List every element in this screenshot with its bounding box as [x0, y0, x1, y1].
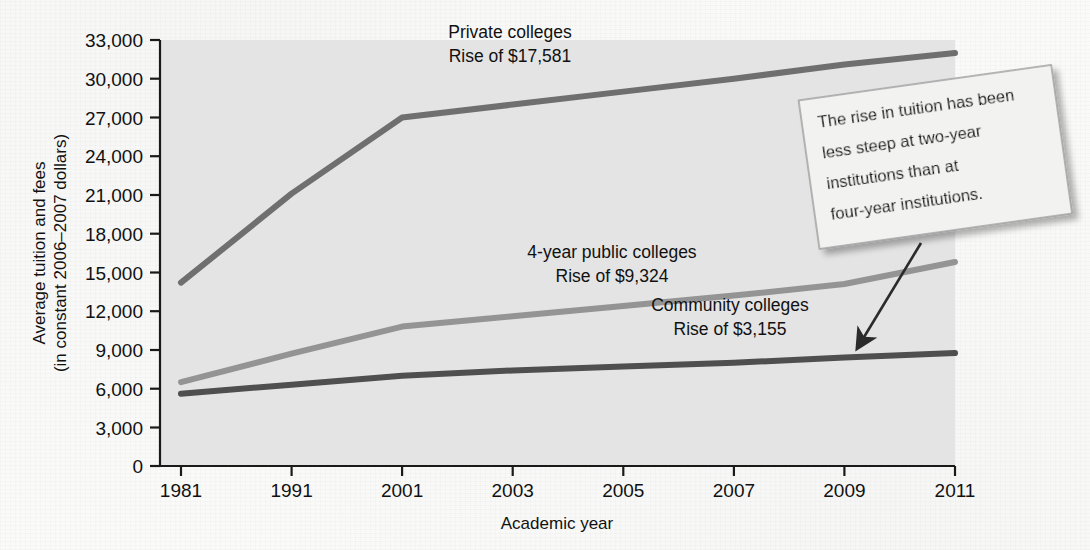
y-axis: 33,000 30,000 27,000 24,000 21,000 18,00…: [85, 30, 160, 477]
y-axis-title-line1: Average tuition and fees: [30, 161, 49, 344]
chart-svg: 33,000 30,000 27,000 24,000 21,000 18,00…: [0, 0, 1090, 550]
x-tick-label: 2003: [492, 480, 534, 501]
x-tick-label: 1991: [270, 480, 312, 501]
y-tick-label: 27,000: [85, 108, 143, 129]
x-tick-label: 2007: [713, 480, 755, 501]
y-axis-tick-labels: 33,000 30,000 27,000 24,000 21,000 18,00…: [85, 30, 143, 477]
y-tick-label: 18,000: [85, 224, 143, 245]
series-label-line2: Rise of $3,155: [674, 319, 787, 339]
series-label-line1: 4-year public colleges: [527, 242, 697, 262]
y-axis-title-line2: (in constant 2006–2007 dollars): [51, 134, 70, 372]
y-axis-title: Average tuition and fees (in constant 20…: [30, 134, 70, 372]
x-tick-label: 2005: [602, 480, 644, 501]
y-tick-label: 9,000: [95, 340, 143, 361]
x-axis-tick-labels: 1981 1991 2001 2003 2005 2007 2009 2011: [160, 480, 976, 501]
y-tick-label: 6,000: [95, 379, 143, 400]
series-label-line2: Rise of $9,324: [556, 266, 669, 286]
x-axis: 1981 1991 2001 2003 2005 2007 2009 2011 …: [160, 466, 976, 533]
y-axis-ticks: [150, 40, 160, 466]
y-tick-label: 15,000: [85, 263, 143, 284]
y-tick-label: 21,000: [85, 185, 143, 206]
y-tick-label: 33,000: [85, 30, 143, 51]
y-tick-label: 24,000: [85, 146, 143, 167]
series-label-line2: Rise of $17,581: [449, 46, 572, 66]
x-tick-label: 2001: [381, 480, 423, 501]
x-tick-label: 2009: [823, 480, 865, 501]
series-label-line1: Private colleges: [448, 22, 572, 42]
x-tick-label: 2011: [935, 480, 976, 501]
x-tick-label: 1981: [160, 480, 202, 501]
tuition-line-chart-figure: 33,000 30,000 27,000 24,000 21,000 18,00…: [0, 0, 1090, 550]
y-tick-label: 0: [132, 456, 143, 477]
series-label-line1: Community colleges: [651, 295, 809, 315]
x-axis-ticks: [181, 466, 955, 476]
y-tick-label: 30,000: [85, 69, 143, 90]
y-tick-label: 3,000: [95, 418, 143, 439]
y-tick-label: 12,000: [85, 301, 143, 322]
x-axis-title: Academic year: [501, 514, 614, 533]
